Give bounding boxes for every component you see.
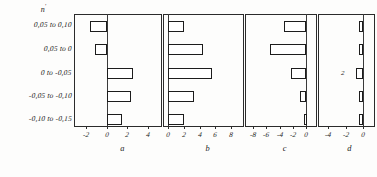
panel-top-rule xyxy=(74,14,162,15)
zero-baseline xyxy=(306,14,307,126)
bar-a-4 xyxy=(107,114,122,125)
ticklabel-a-3: 4 xyxy=(145,131,149,139)
column-header-prime: ' xyxy=(45,3,46,9)
bar-c-4 xyxy=(304,114,307,125)
ticklabel-d-1: -2 xyxy=(342,131,349,139)
tick-c-4 xyxy=(306,126,307,129)
bar-panel-b xyxy=(163,14,244,126)
row-label-3: -0,05 to -0,10 xyxy=(29,91,73,100)
panel-left-rule xyxy=(163,14,164,126)
tick-c-3 xyxy=(293,126,294,129)
panel-left-rule xyxy=(245,14,246,126)
bar-c-3 xyxy=(300,91,306,102)
tick-b-0 xyxy=(168,126,169,129)
panel-right-rule xyxy=(243,14,244,126)
bar-b-3 xyxy=(168,91,194,102)
panel-top-rule xyxy=(318,14,375,15)
bar-a-2 xyxy=(107,68,134,79)
row-label-2: 0 to -0,05 xyxy=(41,68,72,77)
bar-d-4 xyxy=(359,114,363,125)
row-label-1: 0,05 to 0 xyxy=(44,44,72,53)
column-header: n' xyxy=(41,3,46,14)
ticklabel-c-3: -2 xyxy=(290,131,297,139)
tick-b-1 xyxy=(184,126,185,129)
panel-right-rule xyxy=(316,14,317,126)
panel-right-rule xyxy=(374,14,375,126)
ticklabel-b-3: 6 xyxy=(213,131,217,139)
bar-a-0 xyxy=(90,21,106,32)
bar-a-3 xyxy=(107,91,132,102)
panel-left-rule xyxy=(74,14,75,126)
tick-d-2 xyxy=(363,126,364,129)
ticklabel-a-2: 2 xyxy=(125,131,129,139)
panel-caption-c: c xyxy=(283,144,287,153)
panel-caption-d: d xyxy=(347,144,351,153)
row-label-column: n' 0,05 to 0,10 0,05 to 0 0 to -0,05 -0,… xyxy=(0,0,74,140)
bar-d-1 xyxy=(359,44,363,55)
tick-b-4 xyxy=(231,126,232,129)
bar-panel-d: 2 xyxy=(318,14,375,126)
ticklabel-c-2: -4 xyxy=(276,131,283,139)
tick-c-0 xyxy=(253,126,254,129)
bar-panel-c xyxy=(245,14,317,126)
panel-annotation-d: 2 xyxy=(341,69,345,77)
panel-caption-a: a xyxy=(120,144,124,153)
tick-d-1 xyxy=(346,126,347,129)
bar-c-1 xyxy=(270,44,306,55)
panel-caption-b: b xyxy=(205,144,209,153)
tick-d-0 xyxy=(328,126,329,129)
bar-a-1 xyxy=(95,44,106,55)
panel-right-rule xyxy=(161,14,162,126)
ticklabel-b-1: 2 xyxy=(181,131,185,139)
tick-a-0 xyxy=(86,126,87,129)
tick-b-3 xyxy=(215,126,216,129)
bar-b-4 xyxy=(168,114,185,125)
ticklabel-b-0: 0 xyxy=(166,131,170,139)
ticklabel-c-1: -6 xyxy=(263,131,270,139)
ticklabel-a-0: -2 xyxy=(83,131,90,139)
figure-root: n' 0,05 to 0,10 0,05 to 0 0 to -0,05 -0,… xyxy=(0,0,377,177)
ticklabel-c-4: 0 xyxy=(304,131,308,139)
row-label-0: 0,05 to 0,10 xyxy=(34,20,72,29)
ticklabel-c-0: -8 xyxy=(250,131,257,139)
row-label-4: -0,10 to -0,15 xyxy=(29,114,73,123)
ticklabel-b-2: 4 xyxy=(197,131,201,139)
tick-c-2 xyxy=(280,126,281,129)
bar-b-0 xyxy=(168,21,185,32)
bar-panel-a xyxy=(74,14,162,126)
ticklabel-d-2: 0 xyxy=(361,131,365,139)
zero-baseline xyxy=(363,14,364,126)
bar-b-2 xyxy=(168,68,212,79)
ticklabel-a-1: 0 xyxy=(105,131,109,139)
tick-a-2 xyxy=(127,126,128,129)
bar-d-3 xyxy=(359,91,363,102)
bar-c-0 xyxy=(284,21,307,32)
tick-b-2 xyxy=(200,126,201,129)
bar-b-1 xyxy=(168,44,204,55)
tick-a-1 xyxy=(107,126,108,129)
panel-top-rule xyxy=(163,14,244,15)
ticklabel-d-0: -4 xyxy=(325,131,332,139)
tick-c-1 xyxy=(266,126,267,129)
ticklabel-b-4: 8 xyxy=(229,131,233,139)
bar-d-2 xyxy=(356,68,362,79)
bar-d-0 xyxy=(359,21,363,32)
panel-left-rule xyxy=(318,14,319,126)
bar-c-2 xyxy=(291,68,306,79)
tick-a-3 xyxy=(148,126,149,129)
